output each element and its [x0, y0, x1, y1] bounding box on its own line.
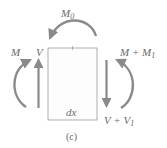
beam-element-free-body-diagram: M0 V M V + V1 M + M1 dx (c) — [0, 0, 167, 148]
top-moment-label: M0 — [60, 7, 74, 21]
left-shear-label: V — [36, 46, 44, 58]
left-moment-arrow-icon — [14, 60, 30, 107]
figure-caption: (c) — [66, 131, 77, 143]
element-length-label: dx — [66, 106, 77, 118]
top-moment-arrow-icon — [50, 21, 96, 39]
left-moment-label: M — [10, 46, 21, 58]
right-shear-label: V + V1 — [104, 114, 134, 128]
right-moment-label: M + M1 — [119, 46, 155, 60]
right-moment-arrow-icon — [117, 60, 133, 108]
